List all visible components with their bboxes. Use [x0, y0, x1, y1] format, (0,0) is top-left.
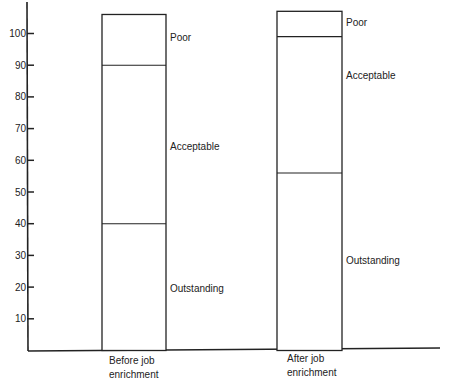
segment-label-acceptable: Acceptable — [170, 141, 220, 152]
y-axis: 102030405060708090100 — [9, 2, 34, 351]
y-tick-label: 80 — [15, 91, 27, 102]
segment-label-poor: Poor — [170, 32, 192, 43]
x-category-label: Before job — [109, 355, 155, 366]
y-tick-label: 50 — [15, 187, 27, 198]
bar-before: OutstandingAcceptablePoor — [102, 14, 224, 350]
segment-label-outstanding: Outstanding — [170, 283, 224, 294]
x-category-label: enrichment — [109, 369, 159, 380]
x-axis — [28, 348, 440, 351]
bar-after: OutstandingAcceptablePoor — [277, 11, 400, 350]
y-tick-label: 100 — [9, 28, 26, 39]
stacked-bar-chart: 102030405060708090100 OutstandingAccepta… — [0, 0, 449, 390]
segment-label-poor: Poor — [346, 17, 368, 28]
y-tick-label: 90 — [15, 60, 27, 71]
y-tick-label: 40 — [15, 218, 27, 229]
y-tick-label: 70 — [15, 123, 27, 134]
x-category-label: enrichment — [287, 367, 337, 378]
bar-outline — [277, 11, 342, 350]
y-tick-label: 20 — [15, 282, 27, 293]
y-tick-label: 60 — [15, 155, 27, 166]
y-tick-label: 30 — [15, 250, 27, 261]
y-tick-label: 10 — [15, 313, 27, 324]
x-category-label: After job — [287, 353, 325, 364]
segment-label-acceptable: Acceptable — [346, 70, 396, 81]
segment-label-outstanding: Outstanding — [346, 255, 400, 266]
